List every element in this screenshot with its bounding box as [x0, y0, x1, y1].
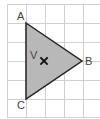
- point-label-v: V: [30, 49, 38, 61]
- vertex-label-c: C: [17, 99, 25, 111]
- triangle-diagram: A B C V: [0, 0, 100, 119]
- triangle-abc: [26, 23, 82, 99]
- vertex-label-a: A: [17, 10, 25, 22]
- vertex-label-b: B: [85, 55, 92, 67]
